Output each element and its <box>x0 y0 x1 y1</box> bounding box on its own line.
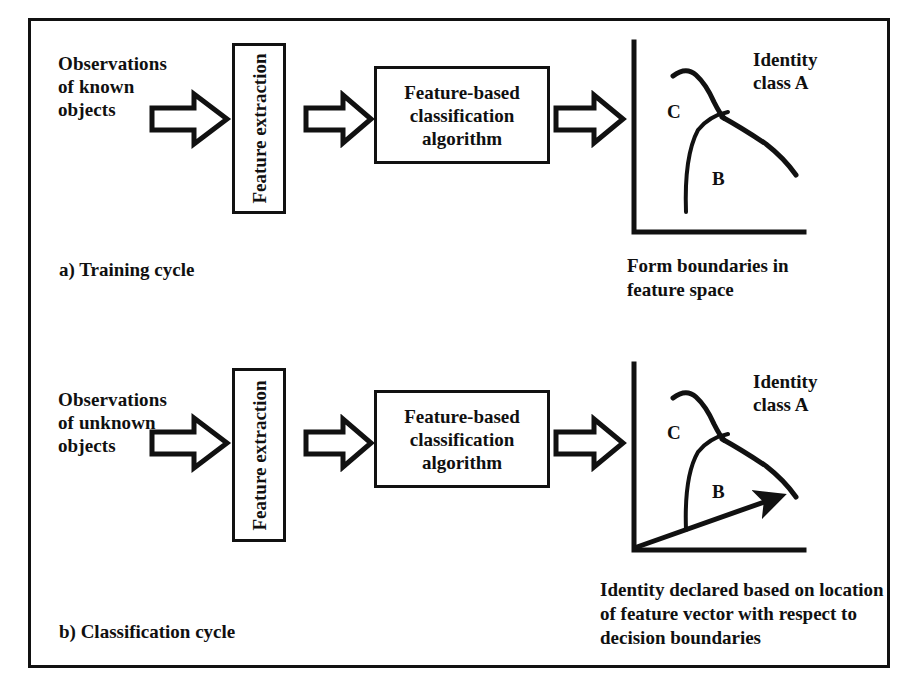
training-identity-class-label: Identity class A <box>753 48 817 94</box>
pattern-recognition-figure: Observations of known objects Feature ex… <box>0 0 912 682</box>
training-classifier-label: Feature-based classification algorithm <box>377 81 547 150</box>
feature-vector-arrow-icon <box>637 501 767 547</box>
training-feature-extraction-box: Feature extraction <box>232 43 286 214</box>
classification-region-label-c: C <box>667 421 681 444</box>
training-region-label-c: C <box>667 100 681 123</box>
block-arrow-right-icon <box>303 90 375 148</box>
block-arrow-right-icon <box>148 412 232 474</box>
training-region-label-b: B <box>712 167 725 190</box>
classification-identity-class-label: Identity class A <box>753 370 817 416</box>
block-arrow-right-icon <box>553 414 627 472</box>
training-classifier-box: Feature-based classification algorithm <box>374 66 550 164</box>
training-cycle-caption: a) Training cycle <box>59 258 194 282</box>
block-arrow-right-icon <box>553 90 627 148</box>
classification-output-caption: Identity declared based on location of f… <box>600 578 884 650</box>
classification-region-label-b: B <box>712 480 725 503</box>
block-arrow-right-icon <box>303 414 375 472</box>
classification-feature-extraction-box: Feature extraction <box>232 368 286 542</box>
block-arrow-right-icon <box>148 88 232 150</box>
classification-cycle-caption: b) Classification cycle <box>59 620 235 644</box>
classification-classifier-label: Feature-based classification algorithm <box>377 405 547 474</box>
classification-feature-extraction-label: Feature extraction <box>248 380 271 530</box>
training-output-caption: Form boundaries in feature space <box>627 254 789 302</box>
training-feature-extraction-label: Feature extraction <box>248 53 271 203</box>
classification-classifier-box: Feature-based classification algorithm <box>374 390 550 488</box>
